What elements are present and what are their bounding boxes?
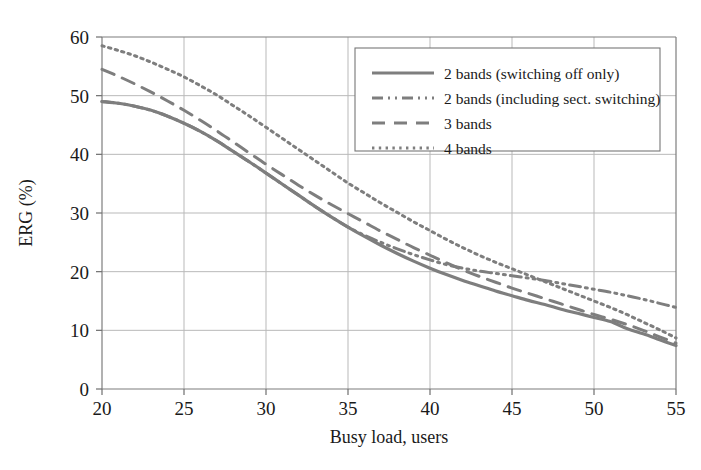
chart-figure: 2025303540455055 0102030405060 Busy load… <box>0 0 701 470</box>
legend-label: 3 bands <box>444 115 492 132</box>
y-tick-label: 40 <box>70 144 89 165</box>
y-axis-tick-marks <box>96 37 102 389</box>
y-tick-label: 10 <box>70 320 89 341</box>
x-tick-label: 50 <box>585 398 604 419</box>
x-axis-tick-labels: 2025303540455055 <box>93 398 686 419</box>
y-axis-tick-labels: 0102030405060 <box>70 27 89 400</box>
x-tick-label: 25 <box>175 398 194 419</box>
y-tick-label: 30 <box>70 203 89 224</box>
x-axis-title: Busy load, users <box>330 427 449 447</box>
x-axis-tick-marks <box>102 389 676 395</box>
legend-label: 2 bands (including sect. switching) <box>444 90 661 108</box>
y-tick-label: 20 <box>70 262 89 283</box>
x-tick-label: 55 <box>667 398 686 419</box>
legend-label: 4 bands <box>444 140 492 157</box>
x-tick-label: 30 <box>257 398 276 419</box>
x-tick-label: 45 <box>503 398 522 419</box>
y-axis-title: ERG (%) <box>16 179 37 246</box>
x-tick-label: 35 <box>339 398 358 419</box>
y-tick-label: 50 <box>70 86 89 107</box>
legend-label: 2 bands (switching off only) <box>444 65 619 83</box>
chart-legend: 2 bands (switching off only)2 bands (inc… <box>355 48 661 157</box>
line-chart: 2025303540455055 0102030405060 Busy load… <box>0 0 701 470</box>
x-tick-label: 40 <box>421 398 440 419</box>
x-tick-label: 20 <box>93 398 112 419</box>
y-tick-label: 60 <box>70 27 89 48</box>
y-tick-label: 0 <box>80 379 90 400</box>
